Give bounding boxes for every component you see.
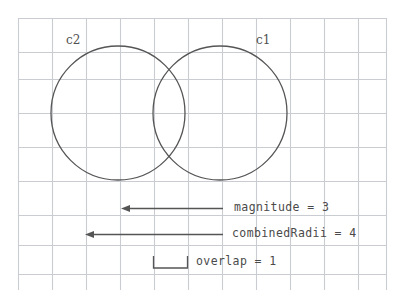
circle-label-c2: c2 — [66, 34, 80, 46]
annotation-label-combined-radii: combinedRadii = 4 — [232, 228, 357, 240]
magnitude-arrow — [121, 205, 223, 212]
overlap-bracket — [154, 256, 188, 268]
diagram-canvas: c2 c1 magnitude = 3 combinedRadii = 4 ov… — [0, 0, 411, 307]
circle-label-c1: c1 — [256, 34, 270, 46]
grid-vertical-lines — [19, 18, 387, 290]
annotation-label-magnitude: magnitude = 3 — [234, 202, 329, 214]
annotation-label-overlap: overlap = 1 — [196, 256, 277, 268]
